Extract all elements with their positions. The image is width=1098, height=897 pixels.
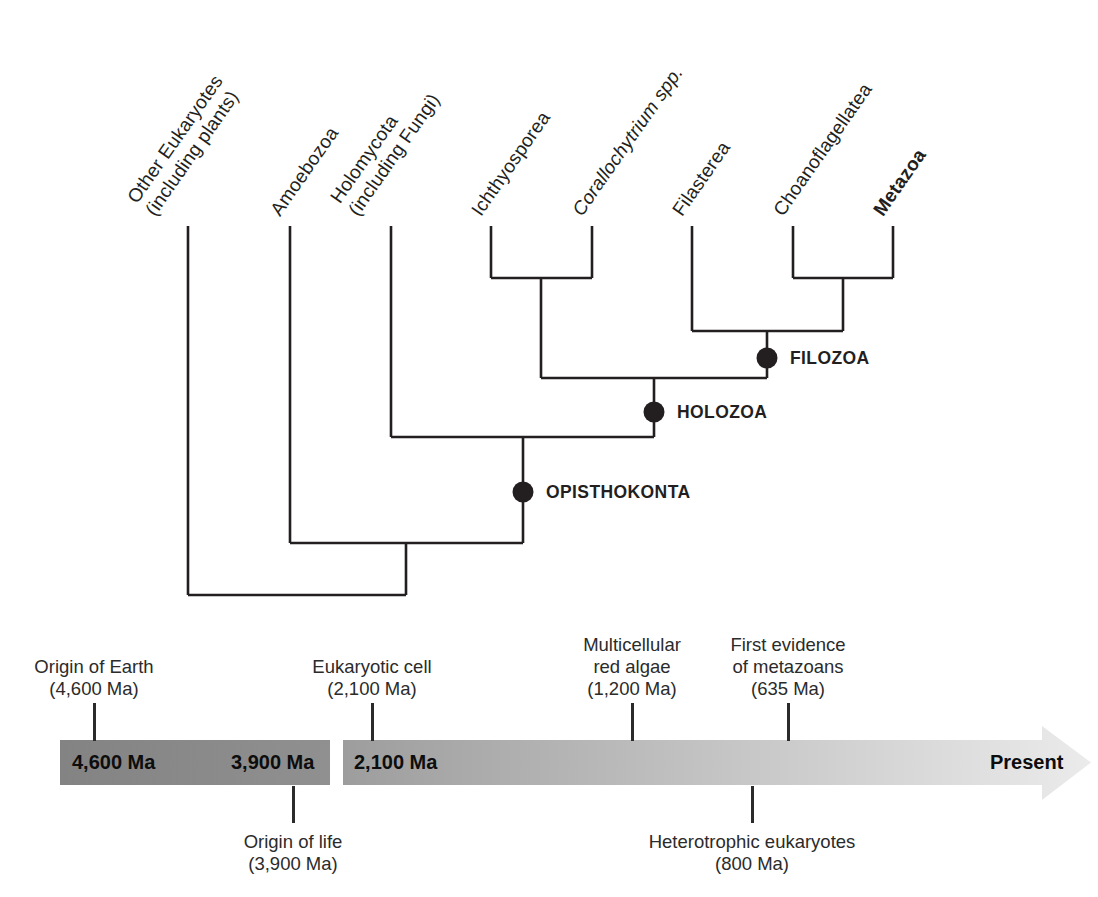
bar-label-2100ma: 2,100 Ma <box>354 751 437 774</box>
event-origin-of-life: Origin of life (3,900 Ma) <box>244 831 343 875</box>
clade-label-opisthokonta: OPISTHOKONTA <box>546 481 690 503</box>
event-eukaryotic-cell: Eukaryotic cell (2,100 Ma) <box>312 656 431 700</box>
tick-origin-of-earth <box>93 703 96 741</box>
timeline-bar-segment-to-present-arrow <box>343 726 1091 800</box>
bar-label-4600ma: 4,600 Ma <box>72 751 155 774</box>
tick-eukaryotic-cell <box>371 703 374 741</box>
clade-node-dots <box>513 348 778 503</box>
opisthokonta-node-dot <box>513 482 534 503</box>
geological-timeline: Origin of Earth (4,600 Ma) Eukaryotic ce… <box>0 615 1098 897</box>
event-heterotrophic-eukaryotes: Heterotrophic eukaryotes (800 Ma) <box>649 831 856 875</box>
bar-label-3900ma: 3,900 Ma <box>231 751 314 774</box>
filozoa-node-dot <box>757 348 778 369</box>
clade-label-holozoa: HOLOZOA <box>677 401 767 423</box>
cladogram: Other Eukaryotes (including plants) Amoe… <box>0 0 1098 615</box>
timeline-bar-svg <box>0 615 1098 897</box>
event-origin-of-earth: Origin of Earth (4,600 Ma) <box>34 656 153 700</box>
tick-heterotrophic-eukaryotes <box>751 786 754 823</box>
event-first-evidence-of-metazoans: First evidence of metazoans (635 Ma) <box>730 634 845 700</box>
tick-multicellular-red-algae <box>631 703 634 741</box>
cladogram-branches-svg <box>0 0 1098 615</box>
node-choanoflagellatea-metazoa <box>793 278 893 331</box>
event-multicellular-red-algae: Multicellular red algae (1,200 Ma) <box>583 634 681 700</box>
node-amorphea <box>290 543 523 595</box>
tick-first-evidence-of-metazoans <box>787 703 790 741</box>
tick-origin-of-life <box>292 786 295 823</box>
node-ichthyosporea-corallochytrium <box>491 278 592 378</box>
figure-canvas: Other Eukaryotes (including plants) Amoe… <box>0 0 1098 897</box>
tree-branches <box>188 226 893 595</box>
bar-label-present: Present <box>990 751 1063 774</box>
clade-label-filozoa: FILOZOA <box>790 347 870 369</box>
holozoa-node-dot <box>644 402 665 423</box>
